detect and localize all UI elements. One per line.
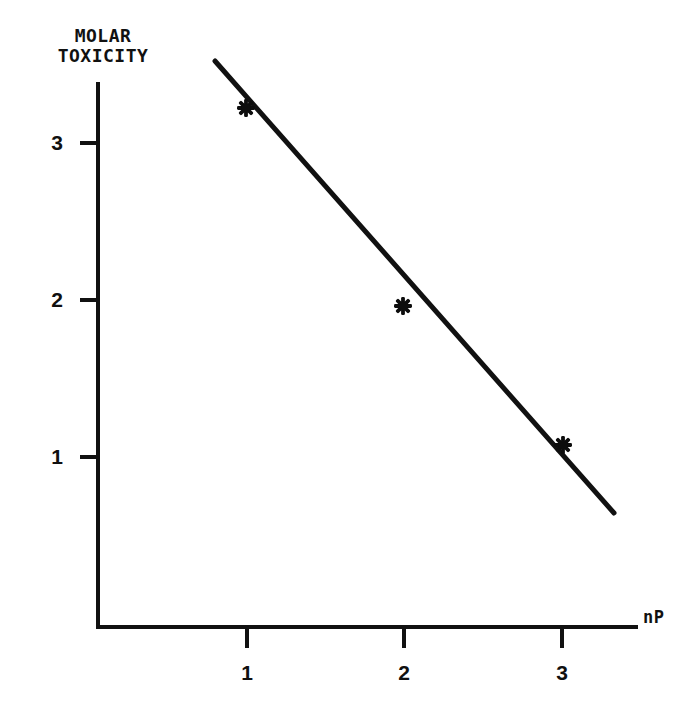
y-tick-label-3: 3 (42, 131, 72, 155)
y-tick-label-2: 2 (42, 288, 72, 312)
x-tick-label-2: 2 (389, 661, 419, 685)
y-axis-title-line-1: MOLAR (44, 26, 162, 46)
x-tick-label-1: 1 (232, 661, 262, 685)
chart-figure: MOLAR TOXICITY nP 3 2 1 1 2 3 (0, 0, 699, 722)
x-axis-title: nP (643, 608, 664, 627)
y-axis-title: MOLAR TOXICITY (44, 26, 162, 66)
data-point-marker (554, 436, 572, 454)
y-axis-title-line-2: TOXICITY (44, 46, 162, 66)
y-tick-label-1: 1 (42, 445, 72, 469)
x-tick-label-3: 3 (547, 661, 577, 685)
data-point-marker (394, 297, 412, 315)
data-point-marker (237, 99, 255, 117)
chart-plot-area (0, 0, 699, 722)
